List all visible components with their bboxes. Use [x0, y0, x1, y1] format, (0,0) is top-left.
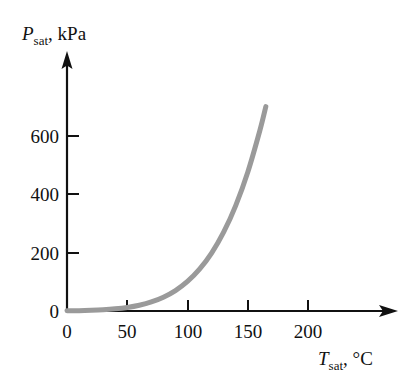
y-axis-ticks — [67, 136, 79, 253]
x-tick-label-0: 0 — [62, 321, 72, 342]
y-axis-title: Psat, kPa — [21, 23, 87, 48]
y-tick-label-200: 200 — [31, 243, 60, 264]
y-tick-label-600: 600 — [31, 126, 60, 147]
x-tick-label-100: 100 — [174, 321, 203, 342]
x-tick-label-150: 150 — [234, 321, 263, 342]
saturation-pressure-chart: 0 200 400 600 0 50 100 150 200 Psat, kPa… — [0, 0, 411, 374]
x-axis-title-unit: , °C — [343, 348, 373, 369]
y-tick-label-0: 0 — [50, 301, 60, 322]
y-axis-title-var: P — [21, 23, 34, 44]
x-axis-title-sub: sat — [329, 358, 344, 373]
y-axis-title-sub: sat — [34, 33, 49, 48]
x-tick-label-50: 50 — [118, 321, 137, 342]
y-tick-label-400: 400 — [31, 184, 60, 205]
x-tick-labels: 0 50 100 150 200 — [62, 321, 322, 342]
y-tick-labels: 0 200 400 600 — [31, 126, 60, 322]
x-tick-label-200: 200 — [294, 321, 323, 342]
x-axis-title: Tsat, °C — [318, 348, 373, 373]
chart-figure: 0 200 400 600 0 50 100 150 200 Psat, kPa… — [0, 0, 411, 374]
y-axis — [62, 51, 73, 311]
saturation-curve — [67, 107, 266, 311]
y-axis-title-unit: , kPa — [48, 23, 87, 44]
